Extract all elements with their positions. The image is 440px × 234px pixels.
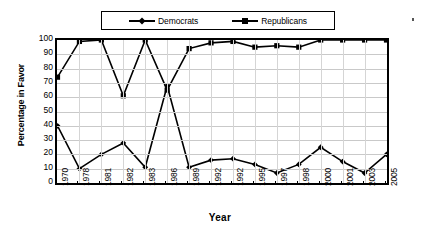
grid-line-vertical (211, 40, 212, 183)
x-tick-mark (319, 181, 320, 185)
x-tick-mark (297, 181, 298, 185)
x-tick-1992-8: 1992 (235, 152, 245, 186)
scan-artifact-speck (412, 18, 414, 21)
y-tick-70: 70 (31, 77, 53, 86)
legend-entry-democrats: Democrats (129, 16, 198, 26)
x-tick-mark (275, 181, 276, 185)
x-tick-1982-3: 1982 (125, 152, 135, 186)
data-point-republicans-1970 (57, 75, 60, 80)
x-tick-mark (341, 181, 342, 185)
x-tick-1998-11: 1998 (301, 152, 311, 186)
x-tick-mark (77, 181, 78, 185)
x-tick-2003-14: 2003 (367, 152, 377, 186)
grid-line (57, 69, 387, 70)
legend-label-republicans: Republicans (261, 16, 307, 26)
x-tick-2001-13: 2001 (345, 152, 355, 186)
grid-line-vertical (321, 40, 322, 183)
x-tick-mark (99, 181, 100, 185)
grid-line (57, 126, 387, 127)
grid-line-vertical (167, 40, 168, 183)
y-tick-30: 30 (31, 134, 53, 143)
x-tick-1983-4: 1983 (147, 152, 157, 186)
y-tick-60: 60 (31, 91, 53, 100)
legend-entry-republicans: Republicans (232, 16, 307, 26)
x-tick-mark (165, 181, 166, 185)
grid-line-vertical (277, 40, 278, 183)
x-tick-1978-1: 1978 (81, 152, 91, 186)
x-tick-mark (143, 181, 144, 185)
grid-line-vertical (365, 40, 366, 183)
y-tick-100: 100 (31, 34, 53, 43)
legend-label-democrats: Democrats (158, 16, 198, 26)
grid-line (57, 97, 387, 98)
x-tick-1995-9: 1995 (257, 152, 267, 186)
grid-line-vertical (299, 40, 300, 183)
y-tick-0: 0 (31, 177, 53, 186)
grid-line-vertical (233, 40, 234, 183)
square-marker-icon (232, 20, 258, 22)
x-tick-mark (209, 181, 210, 185)
diamond-marker-icon (129, 20, 155, 22)
grid-line (57, 83, 387, 84)
x-tick-1989-6: 1989 (191, 152, 201, 186)
y-tick-40: 40 (31, 120, 53, 129)
x-tick-1970-0: 1970 (60, 152, 70, 186)
grid-line-vertical (189, 40, 190, 183)
x-tick-1992-7: 1992 (213, 152, 223, 186)
y-tick-90: 90 (31, 48, 53, 57)
x-tick-mark (231, 181, 232, 185)
y-tick-10: 10 (31, 163, 53, 172)
y-axis-title: Percentage in Favor (16, 40, 26, 170)
y-tick-20: 20 (31, 148, 53, 157)
grid-line-vertical (255, 40, 256, 183)
x-tick-mark (253, 181, 254, 185)
chart-legend: Democrats Republicans (101, 11, 335, 30)
x-tick-2005-15: 2005 (389, 152, 399, 186)
grid-line (57, 54, 387, 55)
x-tick-1997-10: 1997 (279, 152, 289, 186)
grid-line (57, 112, 387, 113)
data-point-republicans-2005 (384, 40, 387, 43)
y-tick-80: 80 (31, 63, 53, 72)
y-tick-50: 50 (31, 106, 53, 115)
x-tick-mark (56, 181, 57, 185)
grid-line-vertical (343, 40, 344, 183)
grid-line (57, 140, 387, 141)
x-tick-mark (385, 181, 386, 185)
x-axis-title: Year (0, 212, 440, 223)
x-tick-1986-5: 1986 (169, 152, 179, 186)
line-chart: Democrats Republicans Percentage in Favo… (0, 0, 440, 234)
x-tick-mark (187, 181, 188, 185)
x-tick-mark (121, 181, 122, 185)
x-tick-2000-12: 2000 (323, 152, 333, 186)
x-tick-1981-2: 1981 (103, 152, 113, 186)
x-tick-mark (363, 181, 364, 185)
